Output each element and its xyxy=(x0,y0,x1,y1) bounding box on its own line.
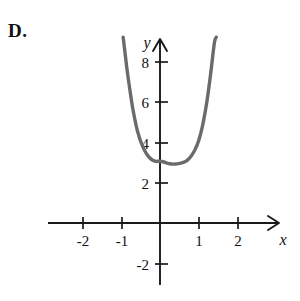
x-axis-title: x xyxy=(278,231,286,248)
y-axis-title: y xyxy=(141,34,151,52)
plotted-curve xyxy=(123,37,216,164)
x-tick-label-neg1: -1 xyxy=(116,233,129,249)
x-tick-label-pos1: 1 xyxy=(195,233,203,249)
y-tick-label-8: 8 xyxy=(142,55,150,71)
y-tick-label-6: 6 xyxy=(142,95,150,111)
y-tick-label-neg2: -2 xyxy=(137,257,150,273)
coordinate-plot: -2 -1 1 2 8 6 4 2 -2 y x xyxy=(0,0,300,301)
figure-panel: D. -2 -1 1 2 8 6 4 2 -2 y x xyxy=(0,0,300,301)
y-tick-label-2: 2 xyxy=(142,176,150,192)
x-tick-label-pos2: 2 xyxy=(234,233,242,249)
x-tick-label-neg2: -2 xyxy=(77,233,90,249)
